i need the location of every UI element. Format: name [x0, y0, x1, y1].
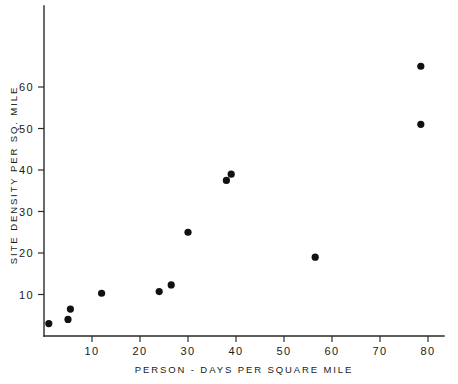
x-axis-ticks: 1020304050607080: [84, 336, 435, 357]
data-point: [417, 63, 424, 70]
data-point: [45, 320, 52, 327]
data-points: [45, 63, 424, 328]
x-tick-label: 40: [228, 345, 243, 357]
y-tick-label: 20: [19, 247, 34, 259]
data-point: [156, 288, 163, 295]
x-tick-label: 10: [84, 345, 99, 357]
y-tick-label: 50: [19, 123, 34, 135]
y-tick-label: 40: [19, 164, 34, 176]
y-axis-ticks: 102030405060: [19, 81, 44, 301]
y-tick-label: 10: [19, 289, 34, 301]
data-point: [417, 121, 424, 128]
data-point: [67, 305, 74, 312]
axes: [44, 6, 444, 336]
data-point: [64, 316, 71, 323]
x-axis-title: PERSON - DAYS PER SQUARE MILE: [135, 364, 354, 375]
x-tick-label: 60: [324, 345, 339, 357]
scatter-chart: 1020304050607080 102030405060 PERSON - D…: [0, 0, 458, 384]
data-point: [168, 281, 175, 288]
x-tick-label: 30: [180, 345, 195, 357]
y-tick-label: 30: [19, 206, 34, 218]
y-tick-label: 60: [19, 81, 34, 93]
plot-area: 1020304050607080 102030405060 PERSON - D…: [0, 0, 458, 384]
y-axis-title: SITE DENSITY PER SQ. MILE: [8, 86, 19, 264]
x-tick-label: 50: [276, 345, 291, 357]
data-point: [312, 254, 319, 261]
data-point: [98, 290, 105, 297]
x-tick-label: 20: [132, 345, 147, 357]
data-point: [184, 229, 191, 236]
data-point: [223, 177, 230, 184]
x-tick-label: 80: [420, 345, 435, 357]
x-tick-label: 70: [372, 345, 387, 357]
data-point: [228, 171, 235, 178]
